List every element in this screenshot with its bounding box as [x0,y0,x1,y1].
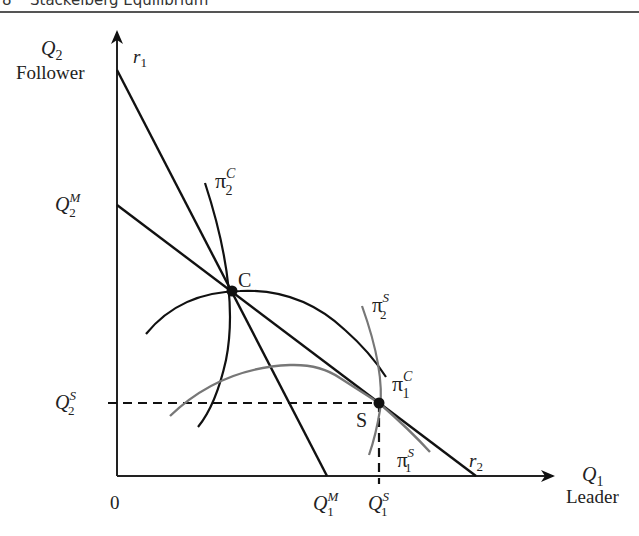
pi1c-label: πC1 [392,369,413,401]
point-c-label: C [238,269,251,291]
origin-label: 0 [110,492,120,513]
q2m-label: QM2 [55,190,81,220]
pi2s-isoprofit-curve [362,306,381,455]
pi2c-label: πC2 [215,166,236,198]
q1s-label: QS1 [368,489,389,519]
r2-reaction-line [117,205,476,476]
point-s-label: S [356,409,367,431]
x-axis-name: Leader [566,486,619,507]
stackelberg-point-s [374,398,385,409]
y-axis-label: Q2 [41,37,62,63]
q2s-label: QS2 [55,388,76,418]
y-axis-name: Follower [16,62,85,83]
pi1c-isoprofit-curve [146,291,386,377]
r1-label: r1 [133,46,147,70]
q1m-label: QM1 [313,489,339,519]
cournot-point-c [227,286,238,297]
r2-label: r2 [469,450,483,474]
pi2s-label: πS2 [372,290,390,322]
r1-reaction-line [117,70,327,476]
pi1s-label: πS1 [397,445,415,475]
stackelberg-diagram: Q2 Follower Q1 Leader 0 r1 r2 QM2 QS2 QM… [0,0,639,536]
